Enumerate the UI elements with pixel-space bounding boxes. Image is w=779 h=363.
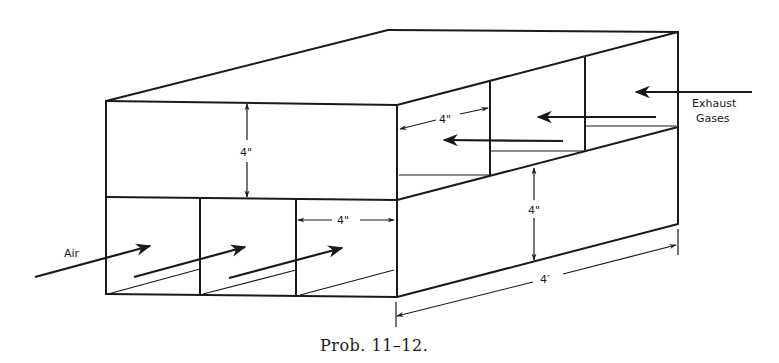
dim-side-height-label: 4" — [528, 204, 540, 217]
air-floor-line-1 — [108, 269, 200, 294]
exhaust-label-line1: Exhaust — [692, 97, 737, 110]
middle-right-slant — [397, 127, 678, 200]
air-flow-arrow-3 — [229, 248, 342, 278]
dimension-upper-height: 4" — [240, 104, 252, 197]
dimension-side-height: 4" — [528, 168, 540, 260]
bottom-right-slant — [397, 224, 678, 297]
dim-line-length-left — [397, 282, 533, 316]
front-top-edge — [106, 101, 397, 105]
dimension-upper-width: 4" — [400, 108, 488, 129]
air-inlet-arrow — [35, 246, 150, 277]
dim-line-gas-right — [460, 108, 488, 114]
middle-plate-edge — [106, 197, 397, 200]
front-bottom-edge — [106, 294, 397, 297]
air-label: Air — [64, 247, 80, 260]
dim-line-gas-left — [400, 120, 436, 129]
dim-upper-width-label: 4" — [439, 113, 451, 126]
dim-upper-height-label: 4" — [240, 146, 252, 159]
top-left-slant — [106, 30, 388, 101]
air-floor-line-3 — [300, 270, 394, 295]
heat-exchanger-diagram: Air Exhaust Gases 4" 4" 4" 4" 4′ — [0, 0, 779, 363]
dimension-lower-width: 4" — [298, 214, 394, 227]
top-back-edge — [388, 30, 678, 32]
air-channel-dividers — [108, 198, 394, 296]
dimension-length: 4′ — [396, 229, 678, 327]
exhaust-label-line2: Gases — [696, 112, 730, 125]
exhaust-flow-arrow-3 — [444, 140, 563, 141]
dim-lower-width-label: 4" — [337, 214, 349, 227]
dim-length-label: 4′ — [540, 273, 550, 286]
figure-caption: Prob. 11–12. — [320, 336, 428, 355]
box-outline — [106, 30, 678, 297]
top-right-slant — [397, 32, 678, 105]
air-flow-arrow-2 — [134, 247, 245, 277]
